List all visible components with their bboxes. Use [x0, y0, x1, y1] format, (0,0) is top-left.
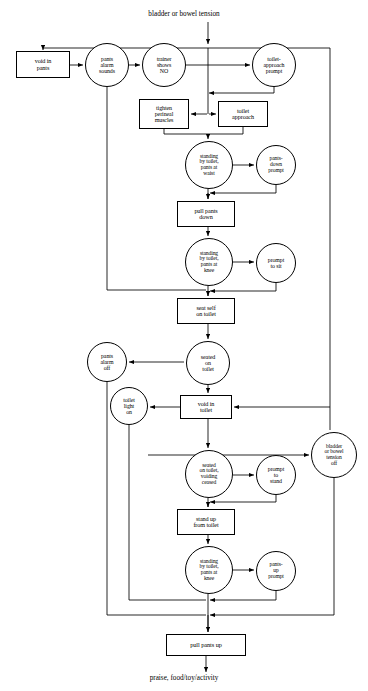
node-label: standing by toilet, pants at knee [199, 251, 220, 274]
node-label: pull pants down [193, 208, 218, 221]
exit-label: praise, food/toy/activity [0, 674, 368, 682]
edge-toiletapproach-standwaist [208, 127, 243, 134]
node-stand-up-from-toilet[interactable]: stand up from toilet [177, 509, 235, 535]
edge-prompttosit-spine [210, 283, 276, 291]
node-label: tighten perineal muscles [154, 105, 175, 124]
entry-label: bladder or bowel tension [0, 10, 368, 18]
node-label: void in pants [34, 58, 53, 71]
node-tighten-perineal-muscles[interactable]: tighten perineal muscles [139, 99, 189, 129]
node-label: pants- up prompt [267, 562, 285, 579]
node-label: trainer shows NO [156, 56, 173, 74]
edge-toiletprompt-spine [209, 87, 274, 93]
node-standing-pants-at-knee-1[interactable]: standing by toilet, pants at knee [185, 238, 233, 286]
node-pants-down-prompt[interactable]: pants- down prompt [256, 145, 296, 185]
flowchart-canvas: bladder or bowel tension praise, food/to… [0, 0, 368, 691]
node-pants-alarm-off[interactable]: pants alarm off [87, 342, 127, 382]
node-standing-pants-at-waist[interactable]: standing by toilet, pants at waist [185, 141, 233, 189]
edge-tensionoff-spine [210, 478, 334, 615]
node-label: pull pants up [189, 642, 223, 649]
node-toilet-approach-prompt[interactable]: toilet- approach prompt [252, 43, 296, 87]
node-trainer-shows-no[interactable]: trainer shows NO [142, 43, 186, 87]
node-label: seated on toilet [200, 354, 216, 373]
node-label: pants alarm sounds [98, 56, 116, 74]
node-label: prompt to stand [267, 466, 285, 484]
node-pants-up-prompt[interactable]: pants- up prompt [256, 551, 296, 591]
node-label: pants- down prompt [267, 156, 285, 173]
node-label: prompt to sit [267, 257, 285, 269]
edge-pantsupprompt-spine [210, 591, 276, 600]
node-prompt-to-sit[interactable]: prompt to sit [256, 243, 296, 283]
node-bladder-bowel-tension-off[interactable]: bladder or bowel tension off [311, 432, 357, 478]
node-label: standing by toilet, pants at knee [199, 559, 220, 582]
node-label: void in toilet [197, 401, 216, 414]
node-pull-pants-up[interactable]: pull pants up [166, 634, 246, 656]
node-toilet-approach[interactable]: toilet approach [218, 101, 268, 127]
node-void-in-toilet[interactable]: void in toilet [180, 395, 232, 419]
node-pull-pants-down[interactable]: pull pants down [177, 201, 235, 227]
node-toilet-light-on[interactable]: toilet light on [110, 387, 148, 425]
edge-prompttostand-spine [210, 495, 276, 502]
node-label: pants alarm off [100, 353, 115, 371]
node-seated-on-toilet[interactable]: seated on toilet [186, 341, 230, 385]
node-label: toilet approach [231, 108, 255, 121]
node-label: seat self on toilet [195, 305, 217, 318]
node-label: toilet- approach prompt [263, 56, 286, 74]
node-standing-pants-at-knee-2[interactable]: standing by toilet, pants at knee [185, 546, 233, 594]
node-label: stand up from toilet [192, 516, 219, 529]
node-label: bladder or bowel tension off [324, 444, 345, 467]
node-label: standing by toilet, pants at waist [199, 154, 220, 177]
node-pants-alarm-sounds[interactable]: pants alarm sounds [85, 43, 129, 87]
node-seat-self-on-toilet[interactable]: seat self on toilet [177, 298, 235, 324]
node-label: toilet light on [122, 397, 136, 415]
node-prompt-to-stand[interactable]: prompt to stand [256, 455, 296, 495]
edge-tighten-standwaist [164, 129, 208, 139]
node-label: seated on toilet, voiding ceased [199, 463, 220, 486]
node-seated-voiding-ceased[interactable]: seated on toilet, voiding ceased [185, 450, 233, 498]
node-void-in-pants[interactable]: void in pants [16, 51, 70, 78]
